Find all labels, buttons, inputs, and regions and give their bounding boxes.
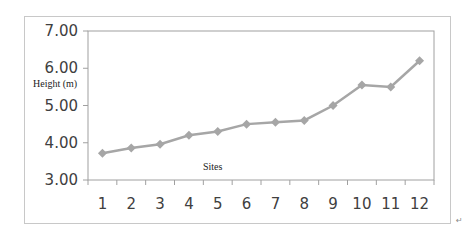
y-axis: 3.004.005.006.007.00 [45, 22, 88, 189]
diamond-marker [300, 116, 309, 125]
diamond-marker [213, 127, 222, 136]
y-tick-label: 6.00 [45, 59, 78, 77]
x-tick-label: 3 [155, 195, 165, 213]
diamond-marker [156, 140, 165, 149]
x-tick-label: 10 [352, 195, 371, 213]
x-tick-label: 2 [126, 195, 136, 213]
y-axis-title: Height (m) [33, 78, 77, 90]
diamond-marker [184, 131, 193, 140]
x-axis-title: Sites [203, 161, 223, 172]
x-tick-label: 4 [184, 195, 194, 213]
diamond-marker [127, 143, 136, 152]
y-tick-label: 3.00 [45, 171, 78, 189]
line-chart: 3.004.005.006.007.00 123456789101112 Hei… [0, 0, 476, 239]
y-tick-label: 4.00 [45, 134, 78, 152]
plot-area [88, 31, 434, 180]
y-tick-label: 7.00 [45, 22, 78, 40]
x-tick-label: 6 [242, 195, 252, 213]
paragraph-return-mark: ↵ [456, 216, 463, 225]
y-tick-label: 5.00 [45, 97, 78, 115]
diamond-marker [98, 149, 107, 158]
diamond-marker [242, 120, 251, 129]
x-axis: 123456789101112 [88, 180, 434, 213]
x-tick-label: 5 [213, 195, 223, 213]
x-tick-label: 1 [98, 195, 108, 213]
x-tick-label: 9 [328, 195, 338, 213]
x-tick-label: 7 [271, 195, 281, 213]
x-tick-label: 12 [410, 195, 429, 213]
diamond-marker [271, 118, 280, 127]
series-line [102, 61, 419, 153]
data-series [98, 56, 424, 157]
x-tick-label: 8 [299, 195, 309, 213]
x-tick-label: 11 [381, 195, 400, 213]
plot-border [88, 31, 434, 180]
